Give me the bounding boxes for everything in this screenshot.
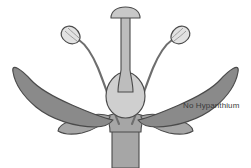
anther-right bbox=[170, 25, 191, 46]
pedicel bbox=[112, 129, 139, 168]
annotation-no-hypanthium: No Hypanthium bbox=[183, 101, 239, 111]
petal-left bbox=[13, 67, 113, 127]
flower-diagram bbox=[0, 0, 251, 168]
petal-right bbox=[138, 67, 238, 127]
flower-diagram-canvas: No Hypanthium bbox=[0, 0, 251, 168]
anther-left bbox=[60, 25, 81, 46]
style bbox=[118, 16, 133, 92]
stigma bbox=[111, 7, 140, 18]
